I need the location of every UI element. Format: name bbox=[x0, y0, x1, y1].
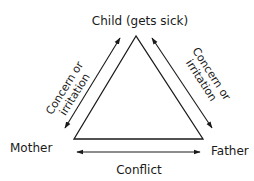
node-label-father: Father bbox=[211, 144, 249, 158]
family-triangle-diagram: Child (gets sick) Mother Father Conflict… bbox=[0, 0, 254, 181]
node-label-mother: Mother bbox=[10, 141, 52, 155]
relationship-triangle bbox=[74, 36, 203, 139]
diagram-canvas: Child (gets sick) Mother Father Conflict… bbox=[0, 0, 254, 181]
edge-label-right: Concern or irritation bbox=[179, 45, 233, 110]
edge-label-conflict: Conflict bbox=[116, 163, 162, 177]
node-label-child: Child (gets sick) bbox=[92, 14, 188, 28]
